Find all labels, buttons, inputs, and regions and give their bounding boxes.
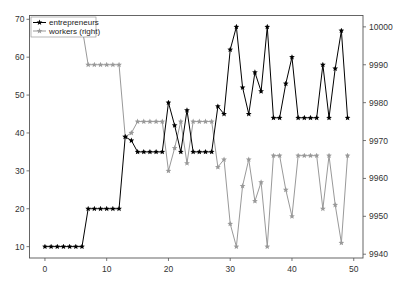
y-right-tick-label: 9960: [369, 173, 388, 183]
chart-area: 01020304050 10203040506070 9940995099609…: [0, 0, 408, 290]
y-right-tick-label: 9950: [369, 211, 388, 221]
y-tick-label: 70: [15, 14, 25, 24]
x-tick-label: 40: [287, 264, 297, 274]
legend-label-workers: workers (right): [48, 27, 100, 36]
y-right-tick-label: 9970: [369, 136, 388, 146]
y-right-tick-label: 10000: [369, 22, 393, 32]
x-tick-label: 10: [102, 264, 112, 274]
x-tick-label: 50: [349, 264, 359, 274]
y-tick-label: 10: [15, 242, 25, 252]
x-tick-label: 0: [43, 264, 48, 274]
y-tick-label: 60: [15, 52, 25, 62]
x-tick-label: 30: [225, 264, 235, 274]
y-tick-label: 50: [15, 90, 25, 100]
y-tick-label: 30: [15, 166, 25, 176]
y-tick-label: 40: [15, 128, 25, 138]
y-right-tick-label: 9980: [369, 98, 388, 108]
x-tick-label: 20: [164, 264, 174, 274]
y-tick-label: 20: [15, 204, 25, 214]
y-right-tick-label: 9940: [369, 249, 388, 259]
y-right-tick-label: 9990: [369, 60, 388, 70]
legend: entrepreneurs workers (right): [31, 17, 100, 37]
